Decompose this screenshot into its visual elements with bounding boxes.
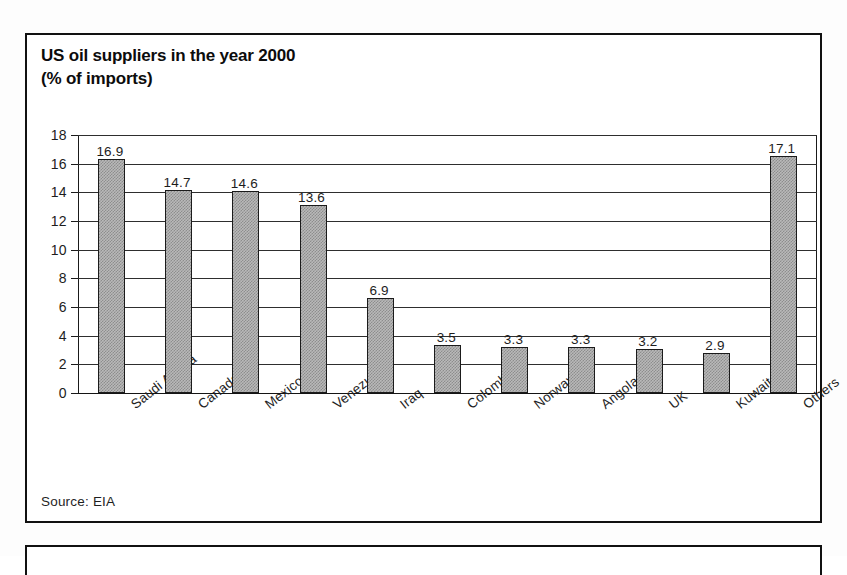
y-tick-2 [71, 364, 78, 365]
y-axis-label-4: 4 [59, 328, 67, 344]
x-axis-label-norway: Norway [531, 400, 540, 412]
plot-right-border [816, 135, 817, 393]
y-axis-label-2: 2 [59, 356, 67, 372]
y-axis-label-0: 0 [59, 385, 67, 401]
y-axis-label-10: 10 [51, 242, 67, 258]
bar-angola: 3.3 [568, 347, 595, 393]
x-axis-label-angola: Angola [598, 400, 607, 412]
source-note: Source: EIA [41, 494, 115, 509]
y-axis-label-6: 6 [59, 299, 67, 315]
y-axis-label-12: 12 [51, 213, 67, 229]
bar-value-label: 2.9 [705, 338, 724, 353]
bar-value-label: 6.9 [369, 283, 388, 298]
gridline-18 [78, 135, 817, 136]
x-axis-label-iraq: Iraq [397, 400, 406, 412]
y-tick-16 [71, 164, 78, 165]
bar-value-label: 3.3 [571, 332, 590, 347]
y-axis-label-16: 16 [51, 156, 67, 172]
bar-chart-plot-area: 181614121086420 16.9Saudi Arabia14.7Cana… [78, 135, 817, 393]
x-axis-label-saudi-arabia: Saudi Arabia [128, 400, 137, 412]
y-tick-18 [71, 135, 78, 136]
y-tick-4 [71, 336, 78, 337]
page-title: US oil suppliers in the year 2000 (% of … [41, 45, 641, 90]
x-axis-label-colombia: Colombia [464, 400, 473, 412]
x-axis-label-mexico: Mexico [262, 400, 271, 412]
chart-title-line-1: US oil suppliers in the year 2000 [41, 45, 641, 68]
x-axis-label-others: Others [800, 400, 809, 412]
gridline-0 [78, 393, 817, 394]
bar-others: 17.1 [770, 156, 797, 393]
y-axis-label-8: 8 [59, 270, 67, 286]
chart-panel: US oil suppliers in the year 2000 (% of … [25, 33, 822, 523]
y-tick-14 [71, 192, 78, 193]
y-tick-12 [71, 221, 78, 222]
bar-value-label: 14.6 [231, 176, 258, 191]
gridline-16 [78, 164, 817, 165]
bar-value-label: 14.7 [164, 175, 191, 190]
bar-kuwait: 2.9 [703, 353, 730, 393]
bar-value-label: 3.3 [504, 332, 523, 347]
x-axis-label-uk: UK [666, 400, 675, 412]
bar-canada: 14.7 [165, 190, 192, 393]
y-tick-8 [71, 278, 78, 279]
bar-value-label: 3.2 [638, 334, 657, 349]
y-axis-line [78, 135, 79, 393]
y-tick-6 [71, 307, 78, 308]
bar-saudi-arabia: 16.9 [98, 159, 125, 393]
y-tick-0 [71, 393, 78, 394]
bar-mexico: 14.6 [232, 191, 259, 393]
bar-value-label: 13.6 [298, 190, 325, 205]
y-axis-label-14: 14 [51, 184, 67, 200]
x-axis-label-kuwait: Kuwait [733, 400, 742, 412]
bar-uk: 3.2 [636, 349, 663, 393]
chart-title-line-2: (% of imports) [41, 68, 641, 91]
bar-value-label: 17.1 [768, 141, 795, 156]
bar-value-label: 3.5 [437, 330, 456, 345]
bar-value-label: 16.9 [96, 144, 123, 159]
bar-venezuela: 13.6 [300, 205, 327, 393]
next-panel-partial [25, 545, 822, 575]
y-axis-label-18: 18 [51, 127, 67, 143]
bar-colombia: 3.5 [434, 345, 461, 393]
x-axis-label-canada: Canada [195, 400, 204, 412]
y-tick-10 [71, 250, 78, 251]
bar-iraq: 6.9 [367, 298, 394, 393]
bar-norway: 3.3 [501, 347, 528, 393]
x-axis-label-venezuela: Venezuela [330, 400, 339, 412]
